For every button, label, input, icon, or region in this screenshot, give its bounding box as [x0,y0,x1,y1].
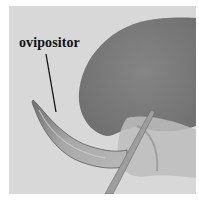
ovipositor-label: ovipositor [19,35,80,51]
leader-line [46,54,56,112]
